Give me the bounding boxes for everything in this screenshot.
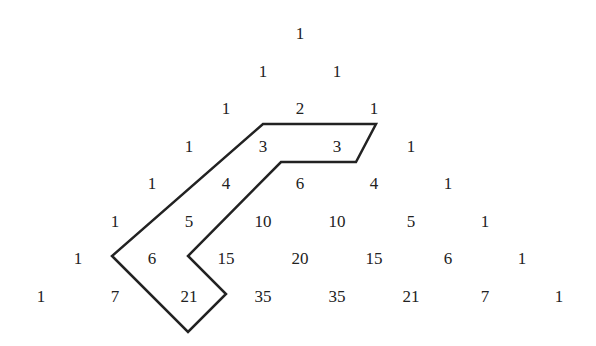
pascal-triangle-diagram: 1111211331146411510105116152015611721353… xyxy=(0,0,596,346)
hockey-stick-outline xyxy=(0,0,596,346)
